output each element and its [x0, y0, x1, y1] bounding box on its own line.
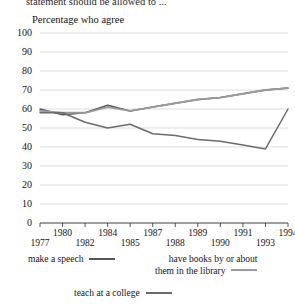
x-axis-tick-label: 1982 [70, 238, 100, 248]
x-tick-marks-group [40, 223, 288, 227]
legend-item-make-a-speech: make a speech [28, 254, 115, 265]
y-axis-tick-label: 20 [8, 180, 32, 190]
plot-svg [0, 0, 295, 245]
legend-item-have-books: have books by or about them in the libra… [155, 254, 257, 277]
x-axis-tick-label: 1988 [160, 238, 190, 248]
x-axis-tick-label: 1993 [250, 238, 280, 248]
x-axis-tick-label: 1990 [205, 238, 235, 248]
y-axis-tick-label: 60 [8, 104, 32, 114]
chart-figure: statement should be allowed to ... Perce… [0, 0, 295, 306]
y-axis-tick-label: 70 [8, 85, 32, 95]
x-axis-tick-label: 1985 [115, 238, 145, 248]
legend-label-have-books-line2-row: them in the library [155, 265, 257, 276]
legend-label-make-a-speech: make a speech [28, 254, 83, 265]
legend-swatch-make-a-speech [89, 258, 115, 260]
y-axis-tick-label: 40 [8, 142, 32, 152]
y-axis-tick-label: 30 [8, 161, 32, 171]
series-lines-group [40, 88, 288, 149]
series-line [40, 109, 288, 149]
y-axis-tick-label: 90 [8, 47, 32, 57]
chart-legend: make a speech have books by or about the… [0, 252, 295, 306]
x-axis-tick-label: 1991 [228, 228, 258, 238]
legend-label-teach-college: teach at a college [74, 288, 140, 299]
x-axis-tick-label: 1987 [138, 228, 168, 238]
y-axis-tick-label: 0 [8, 218, 32, 228]
y-axis-tick-label: 100 [8, 28, 32, 38]
x-axis-tick-label: 1989 [183, 228, 213, 238]
legend-label-have-books-line2: them in the library [155, 266, 225, 277]
legend-label-have-books-line1: have books by or about [169, 254, 258, 265]
legend-swatch-teach-college [146, 292, 172, 294]
x-axis-tick-label: 1980 [48, 228, 78, 238]
y-axis-tick-label: 80 [8, 66, 32, 76]
y-axis-tick-label: 10 [8, 199, 32, 209]
y-axis-tick-label: 50 [8, 123, 32, 133]
legend-swatch-have-books [231, 269, 257, 271]
x-axis-tick-label: 1984 [93, 228, 123, 238]
x-axis-tick-label: 1977 [25, 238, 55, 248]
legend-item-teach-college: teach at a college [74, 288, 172, 299]
x-axis-tick-label: 1994 [273, 228, 295, 238]
plot-area: 0102030405060708090100 19771980198219841… [0, 0, 295, 245]
